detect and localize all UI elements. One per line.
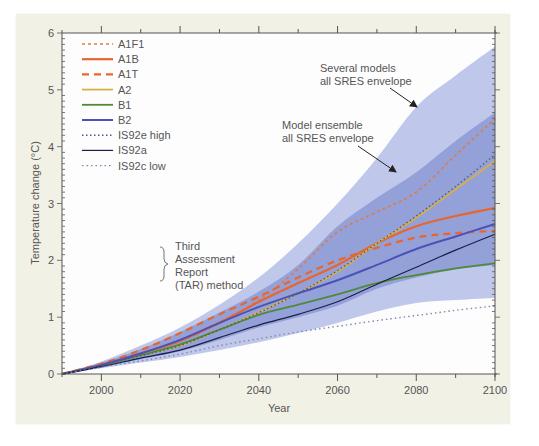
legend-label: IS92c low: [118, 160, 166, 172]
x-tick-label: 2040: [247, 384, 271, 396]
temperature-chart: 2000202020402060208021000123456 Year Tem…: [0, 0, 539, 446]
legend-label: A1F1: [118, 38, 144, 50]
legend-label: IS92e high: [118, 129, 171, 141]
legend-label: A1B: [118, 53, 139, 65]
inner-envelope-annotation-line2: all SRES envelope: [282, 132, 374, 144]
x-tick-label: 2000: [89, 384, 113, 396]
legend-label: IS92a: [118, 144, 148, 156]
outer-envelope-annotation-line2: all SRES envelope: [320, 75, 412, 87]
y-tick-label: 2: [48, 254, 54, 266]
tar-note-line1: Third: [175, 240, 200, 252]
x-tick-label: 2060: [325, 384, 349, 396]
x-tick-label: 2100: [483, 384, 507, 396]
legend-label: A1T: [118, 68, 138, 80]
x-tick-label: 2020: [168, 384, 192, 396]
inner-envelope-annotation-line1: Model ensemble: [282, 119, 363, 131]
y-axis-label: Temperature change (°C): [29, 141, 41, 265]
tar-note-line3: Report: [175, 266, 208, 278]
legend-label: B2: [118, 114, 131, 126]
tar-note-line2: Assessment: [175, 253, 235, 265]
x-tick-label: 2080: [404, 384, 428, 396]
outer-envelope-annotation-line1: Several models: [320, 62, 396, 74]
y-tick-label: 6: [48, 27, 54, 39]
x-axis-label: Year: [268, 402, 291, 414]
tar-note-line4: (TAR) method: [175, 279, 243, 291]
y-tick-label: 3: [48, 198, 54, 210]
y-tick-label: 1: [48, 311, 54, 323]
y-tick-label: 0: [48, 368, 54, 380]
legend-label: B1: [118, 99, 131, 111]
y-tick-label: 5: [48, 84, 54, 96]
y-tick-label: 4: [48, 141, 54, 153]
legend-label: A2: [118, 84, 131, 96]
